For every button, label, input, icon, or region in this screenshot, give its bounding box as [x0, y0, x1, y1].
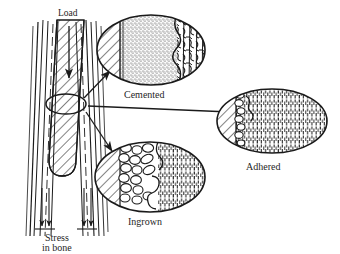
adhered-label: Adhered: [246, 161, 280, 172]
load-label: Load: [58, 8, 78, 18]
cemented-label: Cemented: [124, 89, 165, 100]
figure-canvas: Load Stress in bone: [0, 0, 340, 254]
stress-label-line2: in bone: [42, 242, 72, 253]
cemented-cement-zone: [120, 15, 177, 85]
ingrown-label: Ingrown: [128, 216, 162, 227]
